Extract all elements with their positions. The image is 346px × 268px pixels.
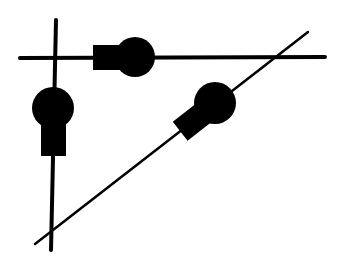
bulb-diagonal-icon <box>173 82 236 141</box>
bulb-vertical-icon <box>32 87 74 156</box>
bulb-lines-diagram <box>0 0 346 268</box>
bulbs-layer <box>32 37 236 156</box>
diagonal-line <box>35 32 308 244</box>
bulb-head <box>32 87 74 129</box>
bulb-horizontal-icon <box>93 37 155 77</box>
bulb-head <box>194 82 236 124</box>
diagram-canvas <box>0 0 346 268</box>
bulb-head <box>115 37 155 77</box>
horizontal-line <box>20 57 325 58</box>
